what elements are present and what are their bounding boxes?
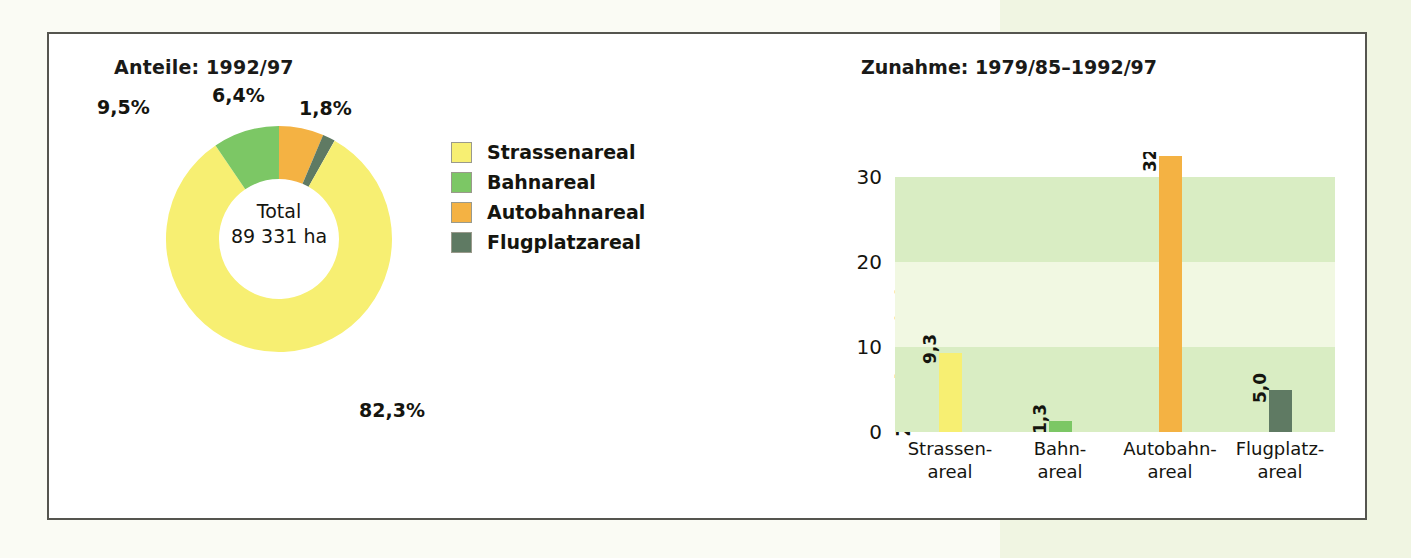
- donut-slice-autobahnareal: [279, 153, 313, 160]
- legend-swatch-bahnareal: [451, 172, 472, 193]
- donut-label-bahnareal: 9,5%: [97, 96, 150, 118]
- donut-label-autobahnareal: 6,4%: [212, 84, 265, 106]
- bar-value-flugplatzareal: 5,0: [1250, 373, 1270, 403]
- bar-value-autobahnareal: 32,5: [1140, 152, 1160, 172]
- x-label-autobahnareal-line2: areal: [1123, 461, 1217, 484]
- figure-root: Anteile: 1992/97: [0, 0, 1411, 558]
- x-label-autobahnareal-line1: Autobahn-: [1123, 438, 1217, 461]
- bar-chart: Zunahme (%) 0 10 20 30 9,3: [835, 152, 1335, 432]
- bar-bahnareal: [1049, 421, 1072, 432]
- bar-chart-title: Zunahme: 1979/85–1992/97: [799, 56, 1219, 78]
- x-label-bahnareal-line2: areal: [1034, 461, 1087, 484]
- donut-slice-flugplatzareal: [313, 159, 322, 163]
- x-label-bahnareal-line1: Bahn-: [1034, 438, 1087, 461]
- donut-slice-bahnareal: [230, 152, 279, 167]
- legend: Strassenareal Bahnareal Autobahnareal Fl…: [451, 137, 645, 257]
- legend-item-bahnareal: Bahnareal: [451, 167, 645, 197]
- legend-swatch-flugplatzareal: [451, 232, 472, 253]
- donut-total-caption: Total: [159, 199, 399, 224]
- x-label-strassenareal: Strassen- areal: [908, 438, 993, 483]
- x-label-bahnareal: Bahn- areal: [1034, 438, 1087, 483]
- donut-label-strassenareal: 82,3%: [359, 399, 425, 421]
- legend-label-autobahnareal: Autobahnareal: [487, 201, 645, 223]
- legend-swatch-autobahnareal: [451, 202, 472, 223]
- x-label-flugplatzareal: Flugplatz- areal: [1236, 438, 1325, 483]
- plot-area: 9,3 1,3 32,5 5,0: [895, 152, 1335, 432]
- x-label-strassenareal-line1: Strassen-: [908, 438, 993, 461]
- donut-center-label: Total 89 331 ha: [159, 199, 399, 249]
- x-label-autobahnareal: Autobahn- areal: [1123, 438, 1217, 483]
- y-tick-0: 0: [835, 420, 882, 444]
- donut-title: Anteile: 1992/97: [114, 56, 294, 78]
- x-label-flugplatzareal-line2: areal: [1236, 461, 1325, 484]
- band-20-30: [895, 177, 1335, 262]
- y-tick-30: 30: [835, 165, 882, 189]
- legend-swatch-strassenareal: [451, 142, 472, 163]
- bar-value-strassenareal: 9,3: [920, 334, 940, 364]
- legend-item-strassenareal: Strassenareal: [451, 137, 645, 167]
- bar-autobahnareal: [1159, 156, 1182, 432]
- y-tick-10: 10: [835, 335, 882, 359]
- x-label-flugplatzareal-line1: Flugplatz-: [1236, 438, 1325, 461]
- y-tick-20: 20: [835, 250, 882, 274]
- x-label-strassenareal-line2: areal: [908, 461, 993, 484]
- bar-strassenareal: [939, 353, 962, 432]
- chart-frame: Anteile: 1992/97: [47, 32, 1367, 520]
- legend-label-strassenareal: Strassenareal: [487, 141, 635, 163]
- legend-label-bahnareal: Bahnareal: [487, 171, 596, 193]
- bar-value-bahnareal: 1,3: [1030, 404, 1050, 432]
- legend-item-autobahnareal: Autobahnareal: [451, 197, 645, 227]
- band-10-20: [895, 262, 1335, 347]
- bar-flugplatzareal: [1269, 390, 1292, 432]
- donut-label-flugplatzareal: 1,8%: [299, 97, 352, 119]
- legend-item-flugplatzareal: Flugplatzareal: [451, 227, 645, 257]
- legend-label-flugplatzareal: Flugplatzareal: [487, 231, 641, 253]
- donut-total-value: 89 331 ha: [159, 224, 399, 249]
